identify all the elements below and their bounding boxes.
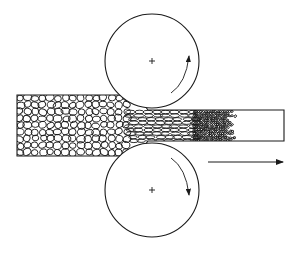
top-roller: [105, 14, 199, 108]
rolling-diagram-svg: [0, 0, 296, 253]
bottom-roller: [105, 143, 199, 237]
rolling-diagram: [0, 0, 296, 253]
grain-structure: [15, 92, 237, 158]
